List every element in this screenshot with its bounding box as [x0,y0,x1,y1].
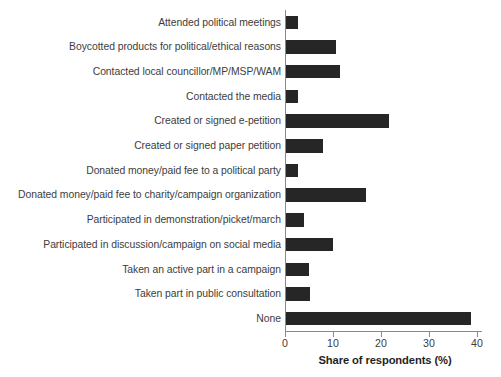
tick-label: 20 [375,337,387,349]
x-axis-title: Share of respondents (%) [285,354,485,366]
tick-label: 10 [327,337,339,349]
tick-label: 0 [282,337,288,349]
tick-label: 40 [471,337,483,349]
tick-label: 30 [423,337,435,349]
x-axis-ticks: 010203040 [0,0,501,377]
bar-chart: Attended political meetingsBoycotted pro… [0,0,501,377]
